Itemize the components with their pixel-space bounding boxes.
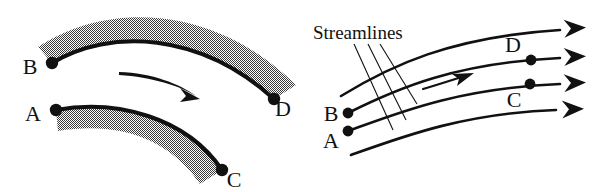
- label-b-right: B: [324, 101, 339, 126]
- label-d-left: D: [275, 96, 291, 121]
- label-c-left: C: [227, 167, 242, 192]
- figure-canvas: B D A C: [0, 0, 604, 192]
- point-b-right-marker: [343, 108, 354, 119]
- label-b-left: B: [23, 54, 38, 79]
- label-d-right: D: [505, 32, 521, 57]
- point-a-marker: [50, 104, 62, 116]
- point-d-right-marker: [526, 55, 537, 66]
- streamlines-annotation-label: Streamlines: [313, 22, 403, 43]
- label-c-right: C: [507, 87, 522, 112]
- point-c-right-marker: [525, 79, 536, 90]
- label-a-left: A: [25, 101, 41, 126]
- figure-svg: B D A C: [0, 0, 604, 192]
- label-a-right: A: [323, 128, 339, 153]
- point-b-marker: [46, 57, 58, 69]
- point-a-right-marker: [343, 126, 354, 137]
